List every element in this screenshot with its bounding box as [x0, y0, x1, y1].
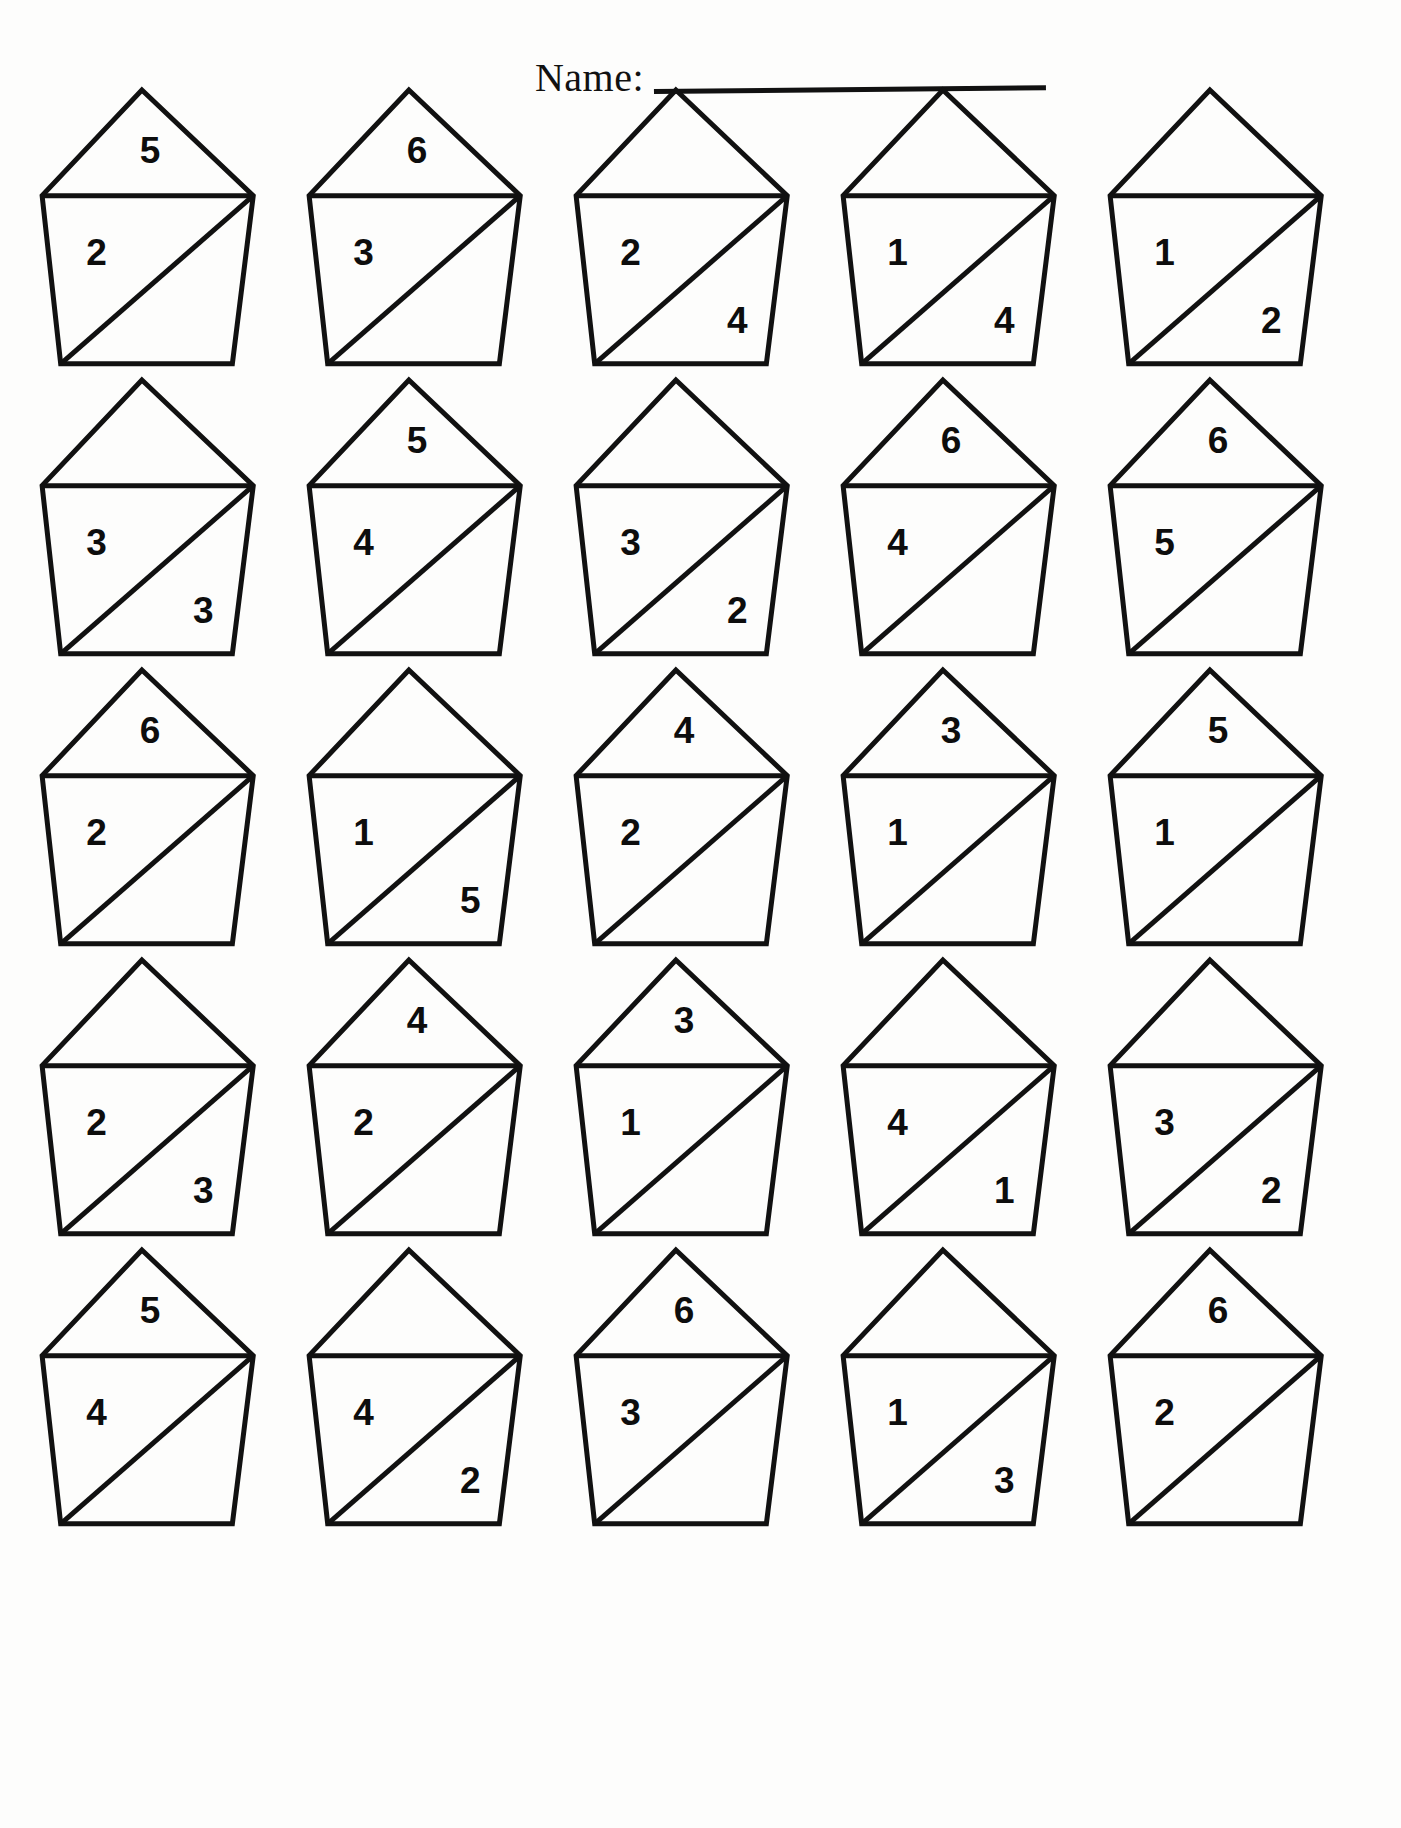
- pentagon-border: [843, 1250, 1054, 1524]
- pentagon-border: [843, 90, 1054, 364]
- house-figure: 32: [568, 374, 800, 664]
- diagonal-divider-line: [595, 1356, 788, 1524]
- diagonal-divider-line: [61, 1356, 254, 1524]
- pentagon-border: [1110, 960, 1321, 1234]
- house-figure: 42: [301, 954, 533, 1244]
- house-figure: 24: [568, 84, 800, 374]
- diagonal-divider-line: [328, 1356, 521, 1524]
- house-figure: 62: [34, 664, 266, 954]
- house-figure: 42: [301, 1244, 533, 1534]
- diagonal-divider-line: [1129, 776, 1322, 944]
- house-outline: [34, 954, 266, 1244]
- diagonal-divider-line: [328, 1066, 521, 1234]
- house-figure: 52: [34, 84, 266, 374]
- house-figure: 31: [568, 954, 800, 1244]
- pentagon-border: [1110, 380, 1321, 654]
- diagonal-divider-line: [862, 776, 1055, 944]
- diagonal-divider-line: [595, 486, 788, 654]
- house-outline: [568, 374, 800, 664]
- pentagon-border: [42, 380, 253, 654]
- house-outline: [301, 84, 533, 374]
- house-outline: [34, 1244, 266, 1534]
- house-figure: 32: [1102, 954, 1334, 1244]
- pentagon-border: [1110, 1250, 1321, 1524]
- house-figure: 63: [301, 84, 533, 374]
- house-outline: [301, 374, 533, 664]
- pentagon-border: [576, 670, 787, 944]
- house-outline: [835, 1244, 1067, 1534]
- house-outline: [34, 664, 266, 954]
- house-outline: [568, 664, 800, 954]
- pentagon-border: [576, 90, 787, 364]
- diagonal-divider-line: [61, 486, 254, 654]
- diagonal-divider-line: [595, 776, 788, 944]
- diagonal-divider-line: [862, 1066, 1055, 1234]
- pentagon-border: [309, 670, 520, 944]
- pentagon-border: [576, 380, 787, 654]
- pentagon-border: [576, 960, 787, 1234]
- house-figure: 41: [835, 954, 1067, 1244]
- house-outline: [1102, 374, 1334, 664]
- house-figure: 31: [835, 664, 1067, 954]
- house-figure: 63: [568, 1244, 800, 1534]
- pentagon-border: [42, 90, 253, 364]
- house-outline: [835, 664, 1067, 954]
- house-outline: [835, 84, 1067, 374]
- house-figure: 54: [34, 1244, 266, 1534]
- diagonal-divider-line: [595, 1066, 788, 1234]
- pentagon-border: [42, 670, 253, 944]
- house-figure: 51: [1102, 664, 1334, 954]
- house-outline: [568, 954, 800, 1244]
- worksheet-page: Name: 5263241412335432646562154231512342…: [0, 0, 1401, 1828]
- shape-grid: 5263241412335432646562154231512342314132…: [34, 84, 1374, 1534]
- house-figure: 65: [1102, 374, 1334, 664]
- diagonal-divider-line: [61, 1066, 254, 1234]
- pentagon-border: [1110, 90, 1321, 364]
- house-figure: 62: [1102, 1244, 1334, 1534]
- house-outline: [34, 374, 266, 664]
- house-figure: 54: [301, 374, 533, 664]
- diagonal-divider-line: [862, 196, 1055, 364]
- house-figure: 14: [835, 84, 1067, 374]
- house-outline: [835, 374, 1067, 664]
- diagonal-divider-line: [61, 776, 254, 944]
- house-outline: [1102, 1244, 1334, 1534]
- house-figure: 23: [34, 954, 266, 1244]
- house-figure: 42: [568, 664, 800, 954]
- diagonal-divider-line: [1129, 1356, 1322, 1524]
- pentagon-border: [843, 670, 1054, 944]
- diagonal-divider-line: [328, 196, 521, 364]
- house-outline: [568, 1244, 800, 1534]
- diagonal-divider-line: [61, 196, 254, 364]
- pentagon-border: [42, 960, 253, 1234]
- diagonal-divider-line: [595, 196, 788, 364]
- house-outline: [568, 84, 800, 374]
- house-outline: [301, 664, 533, 954]
- pentagon-border: [576, 1250, 787, 1524]
- house-figure: 64: [835, 374, 1067, 664]
- house-outline: [835, 954, 1067, 1244]
- diagonal-divider-line: [1129, 196, 1322, 364]
- house-outline: [34, 84, 266, 374]
- diagonal-divider-line: [1129, 486, 1322, 654]
- house-figure: 12: [1102, 84, 1334, 374]
- house-outline: [1102, 954, 1334, 1244]
- diagonal-divider-line: [328, 776, 521, 944]
- house-figure: 13: [835, 1244, 1067, 1534]
- diagonal-divider-line: [1129, 1066, 1322, 1234]
- house-outline: [301, 1244, 533, 1534]
- house-outline: [1102, 664, 1334, 954]
- diagonal-divider-line: [328, 486, 521, 654]
- house-outline: [301, 954, 533, 1244]
- pentagon-border: [1110, 670, 1321, 944]
- house-figure: 15: [301, 664, 533, 954]
- house-figure: 33: [34, 374, 266, 664]
- pentagon-border: [309, 90, 520, 364]
- pentagon-border: [42, 1250, 253, 1524]
- diagonal-divider-line: [862, 1356, 1055, 1524]
- pentagon-border: [843, 380, 1054, 654]
- pentagon-border: [843, 960, 1054, 1234]
- pentagon-border: [309, 380, 520, 654]
- house-outline: [1102, 84, 1334, 374]
- diagonal-divider-line: [862, 486, 1055, 654]
